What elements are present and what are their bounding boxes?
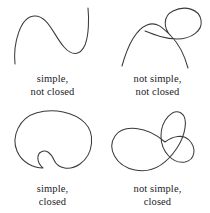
curve-figure-eight-closed-curve <box>105 106 210 180</box>
curve-looped-open-curve <box>105 0 210 72</box>
caption-simple-closed: simple, closed <box>37 183 68 208</box>
caption-line-2: not closed <box>134 86 182 99</box>
caption-line-2: closed <box>37 196 68 209</box>
curve-stroke <box>122 8 201 68</box>
caption-line-1: simple, <box>37 183 68 196</box>
curve-stroke <box>112 112 194 171</box>
panel-simple-not-closed: simple, not closed <box>0 0 105 106</box>
curve-bean-shaped-closed-curve <box>0 106 105 180</box>
caption-line-1: not simple, <box>134 183 182 196</box>
curve-stroke <box>15 111 92 168</box>
curve-open-s-curve <box>0 0 105 72</box>
caption-line-1: simple, <box>31 73 75 86</box>
caption-not-simple-closed: not simple, closed <box>134 183 182 208</box>
curve-stroke <box>15 8 89 64</box>
caption-line-2: not closed <box>31 86 75 99</box>
caption-simple-not-closed: simple, not closed <box>31 73 75 98</box>
curve-classification-figure: simple, not closed not simple, not close… <box>0 0 210 213</box>
panel-not-simple-closed: not simple, closed <box>105 106 210 213</box>
caption-line-2: closed <box>134 196 182 209</box>
caption-line-1: not simple, <box>134 73 182 86</box>
panel-not-simple-not-closed: not simple, not closed <box>105 0 210 106</box>
panel-simple-closed: simple, closed <box>0 106 105 213</box>
caption-not-simple-not-closed: not simple, not closed <box>134 73 182 98</box>
